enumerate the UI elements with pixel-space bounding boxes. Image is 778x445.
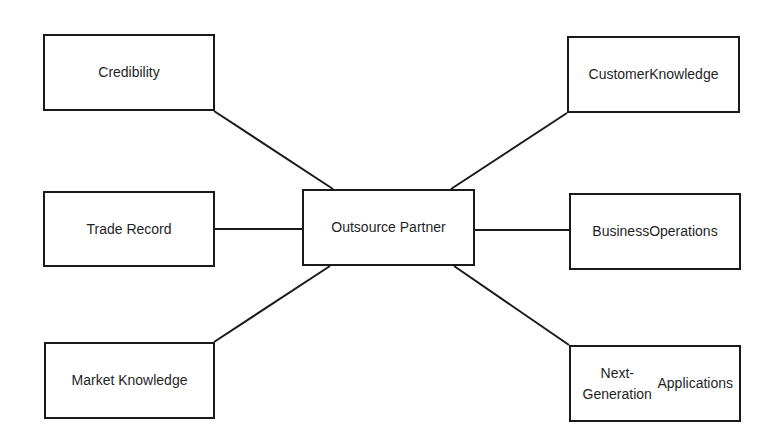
node-label-line: Customer (589, 64, 650, 85)
node-label-line: Market Knowledge (72, 370, 188, 391)
node-market-knowledge: Market Knowledge (44, 342, 215, 419)
node-label-line: Knowledge (649, 64, 718, 85)
edge-credibility (214, 111, 333, 189)
node-label-line: Next-Generation (577, 363, 658, 405)
node-label-line: Trade Record (86, 219, 171, 240)
edge-next-generation-applications (454, 266, 569, 345)
node-label-line: Credibility (98, 62, 159, 83)
node-label-line: Operations (649, 221, 717, 242)
node-label: Outsource Partner (331, 217, 445, 238)
node-trade-record: Trade Record (43, 191, 215, 267)
node-label-line: Applications (658, 373, 734, 394)
hub-spoke-diagram: Outsource Partner Credibility Customer K… (0, 0, 778, 445)
node-credibility: Credibility (43, 34, 215, 111)
node-customer-knowledge: Customer Knowledge (567, 36, 740, 113)
edge-customer-knowledge (451, 113, 567, 189)
edge-market-knowledge (214, 266, 330, 342)
node-outsource-partner: Outsource Partner (302, 189, 475, 266)
node-next-generation-applications: Next-Generation Applications (569, 345, 741, 422)
node-business-operations: Business Operations (569, 193, 741, 270)
node-label-line: Business (592, 221, 649, 242)
